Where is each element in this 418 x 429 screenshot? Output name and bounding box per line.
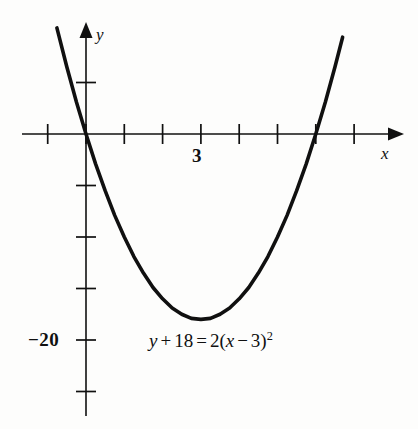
x-tick-label-3: 3 — [192, 146, 202, 165]
parabola-curve — [57, 28, 343, 319]
equation-exponent: 2 — [267, 329, 273, 343]
equation-x: x — [226, 330, 234, 351]
equation-equals: = — [193, 330, 210, 351]
graph-canvas — [0, 0, 418, 429]
equation-2: 2 — [210, 330, 220, 351]
y-axis-arrowhead — [80, 22, 93, 38]
equation-minus: − — [234, 330, 251, 351]
equation-plus: + — [157, 330, 174, 351]
parabola-figure: x y 3 −20 y+18=2(x−3)2 — [0, 0, 418, 429]
x-axis-label: x — [381, 145, 389, 162]
equation-18: 18 — [174, 330, 193, 351]
equation-annotation: y+18=2(x−3)2 — [149, 330, 273, 350]
equation-3: 3 — [251, 330, 261, 351]
x-axis-arrowhead — [388, 128, 404, 141]
y-tick-label-neg-20: −20 — [28, 330, 59, 349]
y-axis-label: y — [96, 26, 104, 43]
